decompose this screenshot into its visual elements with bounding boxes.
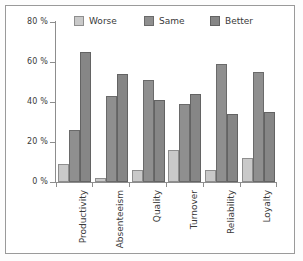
bar-productivity-worse[interactable]: [58, 164, 69, 182]
bar-loyalty-worse[interactable]: [242, 158, 253, 182]
x-separator: [203, 183, 204, 187]
y-tick-60: [50, 62, 55, 63]
bar-turnover-same[interactable]: [179, 104, 190, 182]
bar-turnover-worse[interactable]: [168, 150, 179, 182]
y-tick-0: [50, 182, 55, 183]
y-tick-label-80: 80 %: [4, 18, 48, 26]
bar-productivity-better[interactable]: [80, 52, 91, 182]
y-tick-label-20: 20 %: [4, 138, 48, 146]
x-separator: [129, 183, 130, 187]
y-tick-label-60: 60 %: [4, 58, 48, 66]
bar-quality-same[interactable]: [143, 80, 154, 182]
x-separator: [56, 183, 57, 187]
y-tick-40: [50, 102, 55, 103]
x-separator: [166, 183, 167, 187]
bar-group: [205, 22, 238, 182]
x-category-label-turnover: Turnover: [189, 190, 199, 229]
x-category-label-loyalty: Loyalty: [262, 190, 272, 223]
bar-reliability-same[interactable]: [216, 64, 227, 182]
bar-turnover-better[interactable]: [190, 94, 201, 182]
bar-absenteeism-better[interactable]: [117, 74, 128, 182]
bar-reliability-better[interactable]: [227, 114, 238, 182]
y-axis-labels: 80 % 60 % 40 % 20 % 0 %: [0, 0, 48, 261]
y-tick-20: [50, 142, 55, 143]
bar-group: [132, 22, 165, 182]
bar-group: [95, 22, 128, 182]
y-tick-label-0: 0 %: [4, 178, 48, 186]
x-separator: [276, 183, 277, 187]
y-tick-label-40: 40 %: [4, 98, 48, 106]
bar-quality-better[interactable]: [154, 100, 165, 182]
x-category-label-absenteeism: Absenteeism: [115, 190, 125, 248]
bar-absenteeism-worse[interactable]: [95, 178, 106, 182]
x-category-label-quality: Quality: [152, 190, 162, 222]
bar-loyalty-better[interactable]: [264, 112, 275, 182]
x-separator: [240, 183, 241, 187]
bar-absenteeism-same[interactable]: [106, 96, 117, 182]
bar-loyalty-same[interactable]: [253, 72, 264, 182]
plot-area: [56, 22, 276, 182]
x-separator: [92, 183, 93, 187]
bar-group: [168, 22, 201, 182]
bar-group: [58, 22, 91, 182]
x-category-label-reliability: Reliability: [226, 190, 236, 234]
bar-productivity-same[interactable]: [69, 130, 80, 182]
y-tick-80: [50, 22, 55, 23]
x-category-label-productivity: Productivity: [78, 190, 88, 243]
chart-figure: 80 % 60 % 40 % 20 % 0 % Worse Same Bette…: [0, 0, 303, 261]
bar-reliability-worse[interactable]: [205, 170, 216, 182]
bar-group: [242, 22, 275, 182]
bar-quality-worse[interactable]: [132, 170, 143, 182]
